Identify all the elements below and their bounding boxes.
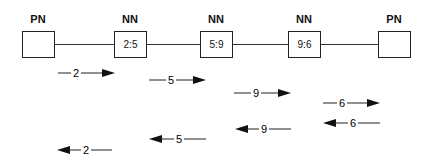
forward-arrow: 6 bbox=[323, 97, 381, 109]
backward-arrow: 5 bbox=[149, 133, 207, 145]
arrow-label: 5 bbox=[168, 74, 174, 86]
backward-arrow: 6 bbox=[323, 117, 381, 129]
nn-node-1: 2:5 bbox=[114, 31, 147, 58]
link-nn3-pn2 bbox=[320, 44, 379, 45]
backward-arrow: 2 bbox=[57, 144, 115, 156]
arrow-right-icon: 9 bbox=[234, 87, 292, 99]
backward-arrow: 9 bbox=[235, 123, 293, 135]
forward-arrow: 2 bbox=[58, 67, 116, 79]
forward-arrow: 9 bbox=[234, 87, 292, 99]
arrow-label: 9 bbox=[261, 123, 267, 135]
arrow-label: 2 bbox=[73, 67, 79, 79]
arrow-label: 9 bbox=[253, 87, 259, 99]
nn-node-3: 9:6 bbox=[288, 31, 321, 58]
node-type-label: NN bbox=[110, 13, 150, 25]
arrow-label: 6 bbox=[350, 117, 356, 129]
arrow-label: 2 bbox=[83, 144, 89, 156]
forward-arrow: 5 bbox=[149, 74, 207, 86]
link-pn1-nn1 bbox=[54, 44, 115, 45]
pn-node-right bbox=[378, 31, 411, 58]
arrow-left-icon: 5 bbox=[149, 133, 207, 145]
arrow-right-icon: 2 bbox=[58, 67, 116, 79]
arrow-left-icon: 6 bbox=[323, 117, 381, 129]
node-type-label: PN bbox=[374, 13, 414, 25]
node-type-label: NN bbox=[284, 13, 324, 25]
arrow-label: 5 bbox=[176, 133, 182, 145]
pn-node-left bbox=[22, 31, 55, 58]
arrow-right-icon: 5 bbox=[149, 74, 207, 86]
arrow-left-icon: 2 bbox=[57, 144, 115, 156]
nn-node-2: 5:9 bbox=[200, 31, 233, 58]
arrow-left-icon: 9 bbox=[235, 123, 293, 135]
node-type-label: NN bbox=[196, 13, 236, 25]
network-diagram: PN NN NN NN PN 2:5 5:9 9:6 2 5 9 bbox=[0, 0, 434, 164]
arrow-label: 6 bbox=[339, 97, 345, 109]
arrow-right-icon: 6 bbox=[323, 97, 381, 109]
node-type-label: PN bbox=[18, 13, 58, 25]
link-nn2-nn3 bbox=[232, 44, 289, 45]
link-nn1-nn2 bbox=[146, 44, 201, 45]
